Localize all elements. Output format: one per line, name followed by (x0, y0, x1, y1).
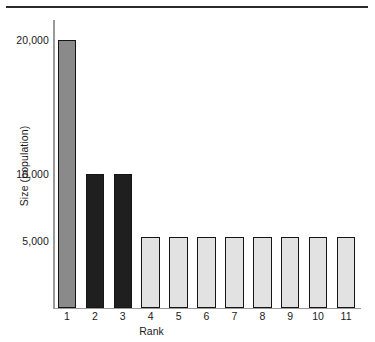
bar[interactable] (141, 237, 159, 308)
bar[interactable] (86, 174, 104, 308)
bar[interactable] (225, 237, 243, 308)
x-axis-title: Rank (139, 325, 164, 337)
x-tick-label: 6 (193, 310, 221, 322)
x-axis-title-wrapper: Rank (0, 325, 375, 337)
bar[interactable] (309, 237, 327, 308)
x-tick-label: 8 (248, 310, 276, 322)
bar-chart-figure: Size (population) 20,00010,0005,000 1234… (0, 0, 375, 342)
x-axis-tick-labels: 1234567891011 (0, 310, 375, 326)
x-tick-label: 11 (332, 310, 360, 322)
x-tick-label: 10 (304, 310, 332, 322)
x-tick-label: 4 (137, 310, 165, 322)
bars-container (0, 0, 375, 342)
bar[interactable] (253, 237, 271, 308)
x-tick-label: 1 (53, 310, 81, 322)
bar[interactable] (58, 40, 76, 308)
bar[interactable] (114, 174, 132, 308)
x-tick-label: 3 (109, 310, 137, 322)
bar[interactable] (337, 237, 355, 308)
x-tick-label: 2 (81, 310, 109, 322)
x-tick-label: 9 (276, 310, 304, 322)
x-tick-label: 7 (220, 310, 248, 322)
bar[interactable] (197, 237, 215, 308)
bar[interactable] (169, 237, 187, 308)
x-tick-label: 5 (165, 310, 193, 322)
bar[interactable] (281, 237, 299, 308)
